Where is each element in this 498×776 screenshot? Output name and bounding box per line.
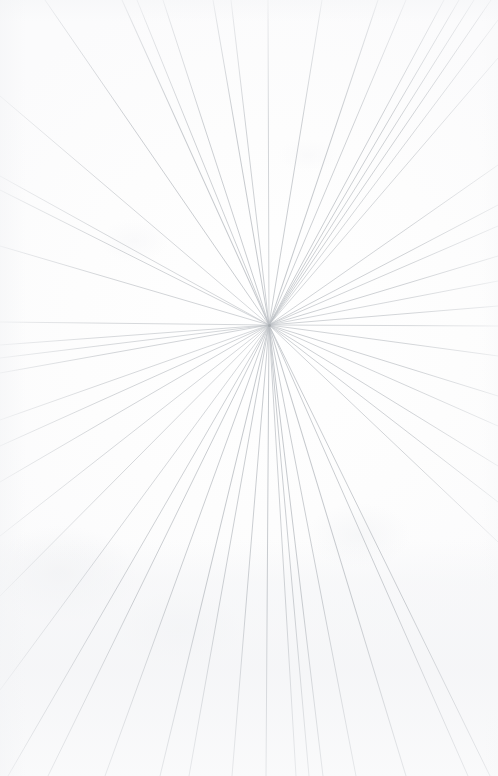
perspective-ray [163,0,269,325]
perspective-ray [269,0,491,325]
perspective-ray [266,325,269,776]
perspective-ray [269,165,498,325]
perspective-ray [269,325,468,776]
perspective-ray [269,281,498,325]
perspective-ray [105,325,269,776]
artboard: Perspective Ray Study pencil on paper A … [0,0,498,776]
perspective-ray [269,325,498,326]
perspective-ray [213,0,269,325]
perspective-ray [232,325,269,776]
perspective-ray [269,325,498,396]
perspective-ray [0,325,269,358]
perspective-ray [0,325,269,420]
perspective-ray [269,20,498,325]
perspective-ray [269,0,474,325]
perspective-ray [160,325,269,776]
perspective-ray [0,325,269,690]
perspective-ray [122,0,269,325]
perspective-ray [0,325,269,345]
perspective-ray [8,325,269,776]
perspective-ray [269,325,498,542]
perspective-ray [269,58,498,325]
perspective-ray [0,176,269,325]
perspective-ray [48,325,269,776]
perspective-ray [269,325,309,776]
perspective-ray [189,325,269,776]
perspective-ray [269,325,323,776]
ray-group [0,0,498,776]
perspective-ray [269,0,406,325]
perspective-ray [269,306,498,325]
perspective-ray [268,0,269,325]
perspective-ray-drawing [0,0,498,776]
perspective-ray [0,325,269,536]
perspective-ray [0,322,269,325]
perspective-ray [231,0,269,325]
perspective-ray [0,325,269,446]
perspective-ray [269,325,406,776]
